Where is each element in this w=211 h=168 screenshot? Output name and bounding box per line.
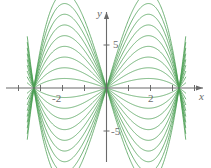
y-axis-label: y xyxy=(97,8,102,19)
y-axis-arrowhead xyxy=(104,12,109,19)
figure-container: 5 -5 -2 2 x y xyxy=(0,0,211,168)
x-tick-label-2: 2 xyxy=(148,93,154,104)
y-tick-label-5: 5 xyxy=(113,39,119,50)
x-tick-label-neg2: -2 xyxy=(52,93,61,104)
x-axis-label: x xyxy=(199,91,204,102)
plot-canvas xyxy=(0,0,211,168)
y-tick-label-neg5: -5 xyxy=(111,126,120,137)
